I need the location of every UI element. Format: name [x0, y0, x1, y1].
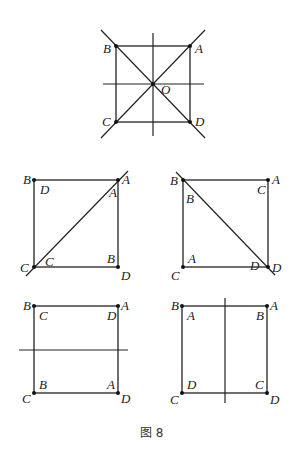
- inner-label-b: B: [186, 191, 194, 206]
- outer-label-b: B: [23, 298, 31, 313]
- panel-middle-left: B A C D D A C B: [20, 171, 131, 283]
- figure-caption: 图 8: [140, 426, 163, 440]
- outer-label-b: B: [170, 173, 178, 188]
- panel-bottom-left: B A C D C D B A: [19, 298, 131, 406]
- outer-label-a: A: [120, 298, 129, 313]
- outer-label-c: C: [20, 260, 29, 275]
- figure-8-diagram: B A C D O B A C D D A C B B A C D B C A …: [0, 0, 298, 453]
- inner-label-c: C: [255, 377, 264, 392]
- outer-label-d: D: [271, 260, 282, 275]
- inner-label-c: C: [45, 254, 54, 269]
- inner-label-a: A: [187, 251, 196, 266]
- outer-label-a: A: [269, 298, 278, 313]
- outer-label-d: D: [120, 268, 131, 283]
- panel-middle-right: B A C D B C A D: [170, 172, 282, 283]
- inner-label-b: B: [256, 308, 264, 323]
- label-b: B: [103, 41, 111, 56]
- outer-label-c: C: [171, 268, 180, 283]
- label-c: C: [102, 114, 111, 129]
- inner-label-a: A: [106, 377, 115, 392]
- label-a: A: [194, 41, 203, 56]
- outer-label-d: D: [120, 391, 131, 406]
- inner-label-a: A: [108, 185, 117, 200]
- inner-label-d: D: [106, 308, 117, 323]
- label-o: O: [161, 82, 171, 97]
- outer-label-a: A: [271, 172, 280, 187]
- outer-label-c: C: [170, 392, 179, 407]
- panel-bottom-right: B A C D A B D C: [170, 298, 280, 407]
- inner-label-c: C: [257, 182, 266, 197]
- label-d: D: [194, 114, 205, 129]
- outer-label-d: D: [269, 392, 280, 407]
- inner-label-c: C: [39, 308, 48, 323]
- inner-label-b: B: [107, 251, 115, 266]
- outer-label-b: B: [171, 298, 179, 313]
- inner-label-d: D: [39, 182, 50, 197]
- outer-label-b: B: [23, 172, 31, 187]
- inner-label-b: B: [39, 377, 47, 392]
- outer-label-a: A: [121, 172, 130, 187]
- inner-label-d: D: [186, 377, 197, 392]
- panel-top: B A C D O: [101, 30, 205, 138]
- outer-label-c: C: [22, 391, 31, 406]
- inner-label-a: A: [186, 308, 195, 323]
- inner-label-d: D: [249, 258, 260, 273]
